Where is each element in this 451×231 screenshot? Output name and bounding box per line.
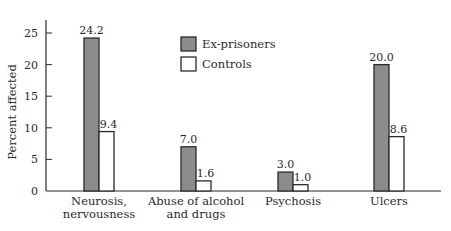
legend-swatch-controls: [181, 57, 196, 71]
bar-controls: [99, 132, 114, 191]
bar-group: 3.01.0Psychosis: [265, 158, 321, 208]
legend-swatch-ex-prisoners: [181, 37, 196, 51]
y-axis-title: Percent affected: [5, 64, 19, 160]
y-tick-label: 10: [24, 122, 38, 135]
x-category-label: nervousness: [63, 207, 136, 221]
bar-ex-prisoners: [181, 147, 196, 191]
bar-value-label: 1.6: [197, 167, 215, 180]
bar-value-label: 20.0: [369, 51, 394, 64]
bar-value-label: 8.6: [390, 123, 408, 136]
bar-controls: [293, 185, 308, 191]
bar-chart: 0510152025 24.29.4Neurosis,nervousness7.…: [0, 0, 451, 231]
bar-value-label: 7.0: [180, 133, 198, 146]
chart-legend: Ex-prisonersControls: [181, 37, 276, 71]
y-tick-label: 0: [31, 185, 38, 198]
bar-ex-prisoners: [278, 172, 293, 191]
bar-group: 7.01.6Abuse of alcoholand drugs: [147, 133, 244, 221]
x-category-label: Ulcers: [370, 194, 408, 208]
x-axis-title: Disorder: [220, 229, 271, 231]
y-tick-label: 5: [31, 153, 38, 166]
bar-group: 20.08.6Ulcers: [369, 51, 408, 208]
x-category-label: Neurosis,: [71, 194, 127, 208]
bar-ex-prisoners: [374, 65, 389, 191]
bar-value-label: 3.0: [277, 158, 295, 171]
legend-label: Ex-prisoners: [202, 37, 276, 51]
bar-ex-prisoners: [84, 38, 99, 191]
x-category-label: Abuse of alcohol: [147, 194, 244, 208]
bar-value-label: 24.2: [79, 24, 104, 37]
y-tick-label: 15: [24, 90, 38, 103]
bar-controls: [389, 137, 404, 191]
y-tick-label: 20: [24, 59, 38, 72]
legend-label: Controls: [202, 57, 252, 71]
x-category-label: Psychosis: [265, 194, 321, 208]
bar-value-label: 1.0: [294, 171, 312, 184]
y-tick-label: 25: [24, 27, 38, 40]
bar-controls: [196, 181, 211, 191]
bar-value-label: 9.4: [100, 118, 118, 131]
x-category-label: and drugs: [167, 207, 226, 221]
